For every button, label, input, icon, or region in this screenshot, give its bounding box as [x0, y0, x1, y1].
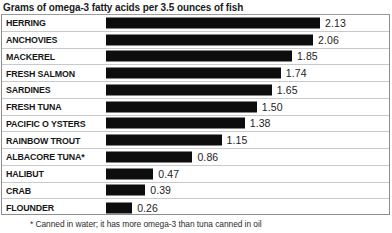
omega3-bar-chart: Grams of omega-3 fatty acids per 3.5 oun… — [0, 0, 392, 233]
row-bar — [106, 101, 257, 112]
row-bar — [106, 118, 245, 129]
chart-footnote: * Canned in water; it has more omega-3 t… — [30, 219, 390, 230]
row-bar — [106, 84, 272, 95]
chart-title: Grams of omega-3 fatty acids per 3.5 oun… — [3, 1, 317, 14]
row-value-label: 0.86 — [197, 149, 218, 165]
row-bar — [106, 17, 320, 28]
row-label: FRESH TUNA — [6, 99, 62, 115]
chart-row: HALIBUT0.47 — [2, 166, 389, 183]
row-value-label: 2.06 — [318, 32, 339, 48]
row-value-label: 0.39 — [150, 183, 171, 199]
row-bar — [106, 68, 281, 79]
chart-row: HERRING2.13 — [2, 15, 389, 32]
row-label: FRESH SALMON — [6, 65, 75, 81]
row-label: ANCHOVIES — [6, 32, 57, 48]
row-value-label: 0.47 — [158, 166, 179, 182]
chart-row: ANCHOVIES2.06 — [2, 32, 389, 49]
row-bar — [106, 34, 313, 45]
chart-row: FLOUNDER0.26 — [2, 199, 389, 216]
chart-row: ALBACORE TUNA*0.86 — [2, 149, 389, 166]
chart-row: FRESH SALMON1.74 — [2, 65, 389, 82]
row-bar — [106, 202, 132, 213]
row-bar — [106, 168, 153, 179]
row-bar — [106, 51, 292, 62]
row-value-label: 1.74 — [286, 65, 307, 81]
chart-rows: HERRING2.13ANCHOVIES2.06MACKEREL1.85FRES… — [2, 15, 389, 214]
row-label: ALBACORE TUNA* — [6, 149, 85, 165]
row-value-label: 1.50 — [262, 99, 283, 115]
row-label: CRAB — [6, 183, 31, 199]
chart-row: SARDINES1.65 — [2, 82, 389, 99]
chart-plot-frame: HERRING2.13ANCHOVIES2.06MACKEREL1.85FRES… — [1, 14, 390, 215]
row-label: FLOUNDER — [6, 199, 54, 216]
row-label: RAINBOW TROUT — [6, 132, 80, 148]
row-value-label: 1.15 — [227, 132, 248, 148]
row-bar — [106, 185, 145, 196]
row-bar — [106, 151, 192, 162]
chart-row: MACKEREL1.85 — [2, 49, 389, 66]
row-value-label: 2.13 — [325, 15, 346, 31]
row-label: SARDINES — [6, 82, 51, 98]
chart-row: CRAB0.39 — [2, 183, 389, 200]
row-label: HALIBUT — [6, 166, 44, 182]
row-label: HERRING — [6, 15, 46, 31]
chart-row: PACIFIC O YSTERS1.38 — [2, 116, 389, 133]
chart-row: FRESH TUNA1.50 — [2, 99, 389, 116]
row-bar — [106, 135, 222, 146]
row-value-label: 1.85 — [297, 49, 318, 65]
row-value-label: 1.38 — [250, 116, 271, 132]
row-value-label: 1.65 — [277, 82, 298, 98]
row-label: MACKEREL — [6, 49, 55, 65]
row-value-label: 0.26 — [137, 199, 158, 216]
chart-row: RAINBOW TROUT1.15 — [2, 132, 389, 149]
row-label: PACIFIC O YSTERS — [6, 116, 85, 132]
